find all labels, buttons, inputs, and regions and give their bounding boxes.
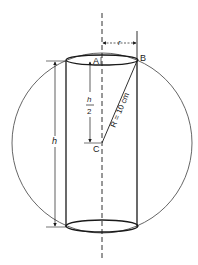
label-c: C (93, 144, 100, 154)
label-h: h (52, 136, 57, 146)
label-half-h-denominator: 2 (87, 107, 92, 116)
label-a: A (93, 56, 99, 66)
label-half-h-numerator: h (87, 95, 92, 104)
label-sphere-radius: R = 10 cm (109, 91, 132, 129)
cylinder-in-sphere-diagram: A B C r h h 2 R = 10 cm (0, 0, 198, 265)
label-b: B (140, 53, 146, 63)
label-r: r (118, 38, 121, 47)
